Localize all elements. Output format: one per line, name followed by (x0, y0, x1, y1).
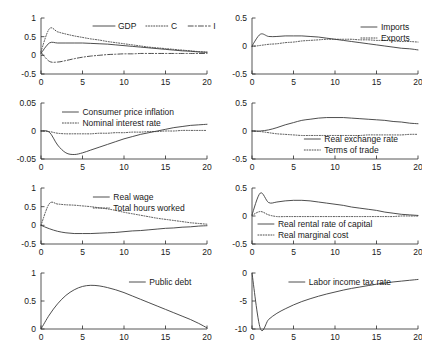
series-line-0 (41, 225, 207, 233)
x-tick-label: 5 (291, 247, 296, 257)
x-tick-label: 0 (250, 162, 255, 172)
x-tick-label: 5 (80, 247, 85, 257)
chart-panel-panel-real-exchange-terms-of-trade: -0.500.505101520Real exchange rateTerms … (0, 0, 422, 351)
y-tick-label: 0 (31, 324, 36, 334)
legend-label: Real exchange rate (324, 134, 398, 144)
legend-label: Total hours worked (113, 203, 185, 213)
x-tick-label: 15 (161, 162, 171, 172)
y-tick-label: 0 (31, 50, 36, 60)
x-tick-label: 15 (161, 332, 171, 342)
series-line-0 (252, 34, 418, 50)
x-tick-label: 5 (80, 77, 85, 87)
y-tick-label: -0.5 (232, 239, 247, 249)
x-tick-label: 10 (330, 77, 340, 87)
x-tick-label: 20 (202, 247, 212, 257)
y-tick-label: 1 (31, 13, 36, 23)
axis-spines (41, 103, 207, 159)
y-tick-label: -10 (235, 324, 248, 334)
legend-label: C (171, 21, 177, 31)
series-line-1 (41, 130, 207, 133)
x-tick-label: 5 (291, 162, 296, 172)
series-line-1 (252, 131, 418, 136)
chart-panel-panel-public-debt: 00.5105101520Public debt (0, 0, 422, 351)
x-tick-label: 20 (413, 162, 422, 172)
legend-label: Terms of trade (324, 145, 379, 155)
x-tick-label: 0 (39, 77, 44, 87)
x-tick-label: 20 (413, 77, 422, 87)
x-tick-label: 15 (372, 77, 382, 87)
legend-label: GDP (118, 21, 137, 31)
series-line-0 (252, 118, 418, 132)
y-tick-label: 0.5 (24, 202, 36, 212)
legend-label: Nominal interest rate (82, 118, 161, 128)
x-tick-label: 15 (372, 247, 382, 257)
x-tick-label: 5 (80, 162, 85, 172)
chart-panel-panel-inflation-nominal-rate: -0.0500.0505101520Consumer price inflati… (0, 0, 422, 351)
y-tick-label: -0.5 (21, 239, 36, 249)
series-line-0 (252, 193, 418, 216)
x-tick-label: 5 (80, 332, 85, 342)
x-tick-label: 20 (413, 332, 422, 342)
y-tick-label: 0.05 (19, 98, 36, 108)
x-tick-label: 0 (250, 332, 255, 342)
series-line-1 (41, 202, 207, 225)
y-tick-label: 0.5 (235, 98, 247, 108)
y-tick-label: 0.5 (235, 13, 247, 23)
axis-spines (252, 188, 418, 244)
x-tick-label: 10 (119, 162, 129, 172)
x-tick-label: 0 (39, 247, 44, 257)
series-line-2 (41, 52, 207, 62)
series-line-0 (252, 273, 418, 331)
x-tick-label: 10 (119, 332, 129, 342)
y-tick-label: 0 (242, 268, 247, 278)
legend-label: Real rental rate of capital (278, 219, 373, 229)
series-line-0 (41, 42, 207, 53)
axis-spines (252, 18, 418, 74)
x-tick-label: 0 (39, 332, 44, 342)
y-tick-label: 0.5 (24, 296, 36, 306)
x-tick-label: 0 (250, 77, 255, 87)
x-tick-label: 20 (202, 332, 212, 342)
x-tick-label: 5 (291, 77, 296, 87)
series-line-1 (252, 39, 418, 46)
y-tick-label: 1 (31, 268, 36, 278)
x-tick-label: 15 (161, 77, 171, 87)
axis-spines (252, 273, 418, 329)
axis-spines (41, 273, 207, 329)
x-tick-label: 10 (330, 247, 340, 257)
chart-panel-panel-rental-rate-marginal-cost: -0.500.505101520Real rental rate of capi… (0, 0, 422, 351)
y-tick-label: -0.05 (17, 154, 37, 164)
series-line-1 (41, 28, 207, 52)
y-tick-label: 0.5 (24, 32, 36, 42)
series-line-0 (41, 124, 207, 154)
y-tick-label: 0 (242, 41, 247, 51)
y-tick-label: 1 (31, 183, 36, 193)
x-tick-label: 20 (202, 77, 212, 87)
x-tick-label: 10 (330, 162, 340, 172)
axis-spines (252, 103, 418, 159)
x-tick-label: 20 (413, 247, 422, 257)
legend-label: Public debt (149, 277, 192, 287)
legend-label: I (213, 21, 215, 31)
chart-panel-panel-gdp-c-i: -0.500.5105101520GDPCI (0, 0, 422, 351)
y-tick-label: 0 (31, 126, 36, 136)
x-tick-label: 15 (372, 162, 382, 172)
x-tick-label: 10 (119, 247, 129, 257)
y-tick-label: -5 (239, 296, 247, 306)
legend-label: Labor income tax rate (309, 277, 391, 287)
chart-panel-panel-labor-income-tax-rate: -10-5005101520Labor income tax rate (0, 0, 422, 351)
chart-panel-panel-imports-exports: -0.500.505101520ImportsExports (0, 0, 422, 351)
x-tick-label: 20 (202, 162, 212, 172)
axis-spines (41, 18, 207, 74)
x-tick-label: 0 (250, 247, 255, 257)
y-tick-label: -0.5 (21, 69, 36, 79)
chart-panel-panel-real-wage-hours: -0.500.5105101520Real wageTotal hours wo… (0, 0, 422, 351)
y-tick-label: 0 (242, 126, 247, 136)
series-line-0 (41, 285, 207, 329)
legend-label: Real marginal cost (278, 230, 349, 240)
x-tick-label: 10 (330, 332, 340, 342)
series-line-1 (252, 212, 418, 217)
x-tick-label: 5 (291, 332, 296, 342)
y-tick-label: -0.5 (232, 154, 247, 164)
x-tick-label: 10 (119, 77, 129, 87)
